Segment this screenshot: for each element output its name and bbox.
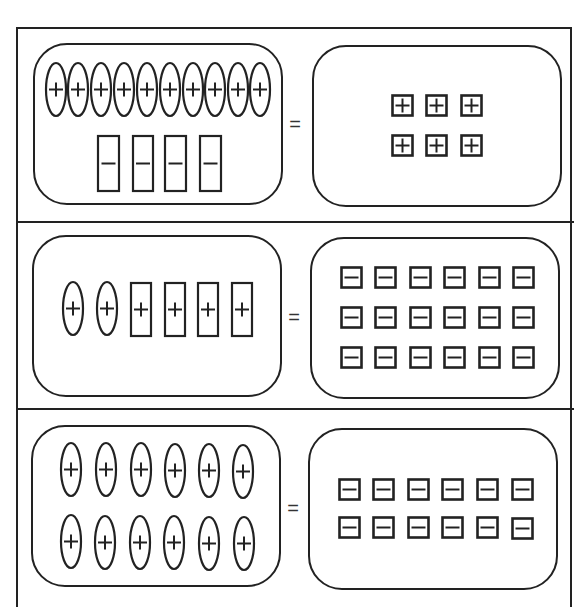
row-3-left-panel (31, 425, 281, 587)
row-2-equals-sign: = (286, 307, 302, 327)
row-3-equals-sign: = (285, 498, 301, 518)
row-1-left-panel (33, 43, 283, 205)
row-3-right-panel (308, 428, 558, 590)
row-divider-2 (16, 408, 574, 410)
row-1-equals-sign: = (287, 114, 303, 134)
row-1-right-panel (312, 45, 562, 207)
row-divider-1 (16, 221, 574, 223)
row-2-left-panel (32, 235, 282, 397)
